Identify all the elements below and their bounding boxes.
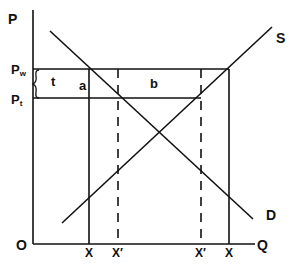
area-b-label: b: [150, 77, 158, 90]
world-price-symbol: P: [11, 62, 20, 77]
area-a-label: a: [79, 79, 86, 92]
origin-label: O: [16, 238, 27, 252]
demand-curve: [50, 31, 253, 219]
tick-x-prime-right: X′: [195, 247, 206, 259]
tick-x-right: X: [225, 247, 233, 259]
price-axis-label: P: [8, 12, 17, 26]
tariff-brace: [33, 70, 39, 98]
world-price-subscript: w: [20, 69, 26, 78]
supply-curve: [62, 27, 272, 223]
tick-x-left: X: [85, 247, 93, 259]
quantity-axis-label: Q: [257, 238, 268, 252]
supply-label: S: [276, 31, 285, 45]
tariff-label: t: [51, 75, 55, 88]
world-price-label: Pw: [11, 63, 26, 78]
demand-label: D: [266, 208, 276, 222]
tariff-diagram: P Pw Pt t a b S D O Q X X′ X′ X: [0, 0, 291, 268]
diagram-canvas: [0, 0, 291, 268]
tariff-price-label: Pt: [11, 93, 22, 108]
tariff-price-subscript: t: [20, 99, 23, 108]
tariff-price-symbol: P: [11, 92, 20, 107]
tick-x-prime-left: X′: [112, 247, 123, 259]
